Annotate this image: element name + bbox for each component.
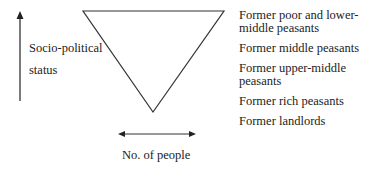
- category-text: middle peasants: [239, 22, 367, 35]
- category-item: Former rich peasants: [239, 95, 367, 108]
- category-text: Former rich peasants: [239, 95, 367, 108]
- category-item: Former middle peasants: [239, 42, 367, 55]
- category-item: Former landlords: [239, 115, 367, 128]
- horizontal-double-arrow-icon: [118, 131, 196, 137]
- category-item: Former poor and lower- middle peasants: [239, 9, 367, 35]
- vertical-arrow-icon: [17, 11, 24, 101]
- category-text: Former middle peasants: [239, 42, 367, 55]
- yaxis-label-line2: status: [29, 63, 57, 77]
- category-item: Former upper-middle peasants: [239, 62, 367, 88]
- xaxis-label: No. of people: [122, 148, 190, 162]
- category-text: peasants: [239, 75, 367, 88]
- inverted-triangle: [83, 11, 224, 112]
- category-text: Former landlords: [239, 115, 367, 128]
- yaxis-label-line1: Socio-political: [29, 41, 103, 55]
